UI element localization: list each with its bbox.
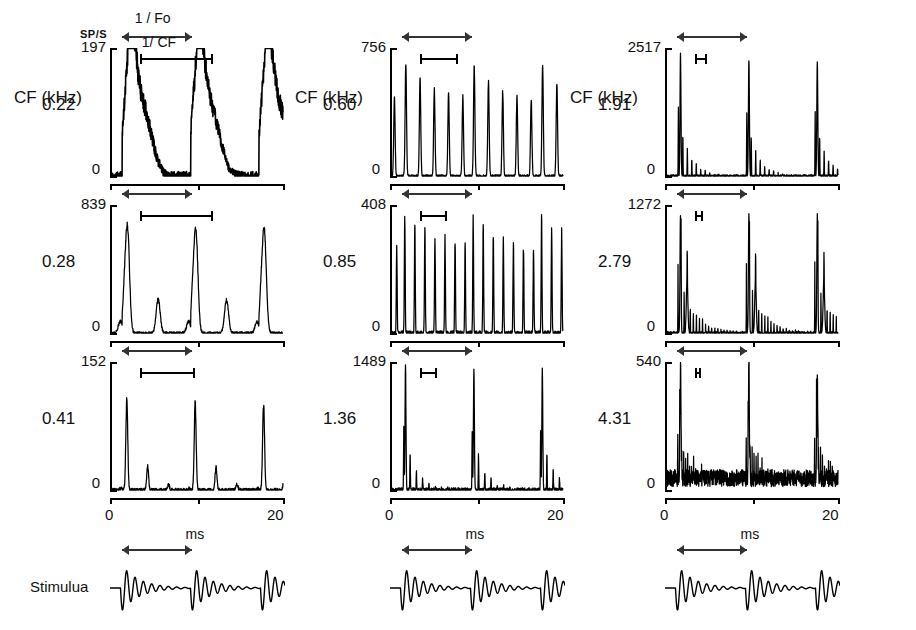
x-axis-tick (198, 341, 200, 347)
y-axis-zero-label: 0 (48, 474, 100, 491)
x-axis-tick (665, 498, 667, 504)
x-axis-tick-label-max: 20 (547, 506, 564, 523)
period-fo-arrow (402, 188, 472, 200)
y-axis-zero-label: 0 (603, 474, 655, 491)
x-axis-tick (110, 184, 112, 190)
histogram-trace (392, 205, 567, 335)
y-axis-max-label: 1272 (603, 195, 661, 212)
x-axis-tick-label-max: 20 (822, 506, 839, 523)
histogram-panel-cf-0.28: 8390 (110, 205, 285, 365)
stimulus-trace (665, 560, 840, 616)
column-header-cf-khz-0: CF (kHz) (14, 88, 82, 108)
x-axis-tick-label-min: 0 (385, 506, 393, 523)
x-axis-tick (478, 498, 480, 504)
period-fo-label: 1 / Fo (135, 10, 171, 26)
x-axis-tick (283, 184, 285, 190)
column-header-cf-khz-1: CF (kHz) (295, 88, 363, 108)
x-axis-tick (283, 498, 285, 504)
column-header-cf-khz-2: CF (kHz) (570, 88, 638, 108)
x-axis-tick (753, 498, 755, 504)
period-fo-arrow (122, 345, 192, 357)
x-axis-tick (110, 341, 112, 347)
period-fo-arrow (402, 345, 472, 357)
x-axis-tick-label-max: 20 (267, 506, 284, 523)
histogram-panel-cf-0.60: 7560 (390, 48, 565, 208)
histogram-trace (667, 48, 842, 178)
x-axis-tick (838, 341, 840, 347)
histogram-panel-cf-4.31: 5400020ms (665, 362, 840, 522)
period-fo-arrow (677, 31, 747, 43)
y-axis-max-label: 2517 (603, 38, 661, 55)
cf-value-0.41: 0.41 (42, 409, 75, 429)
stimulus-waveform-2 (665, 560, 840, 620)
histogram-panel-cf-0.22: 19701 / Fo1/ CF (110, 48, 285, 208)
period-cf-bracket (420, 211, 447, 221)
stimulus-label: Stimulua (30, 578, 88, 595)
period-cf-bracket (140, 211, 214, 221)
x-axis-tick (478, 184, 480, 190)
histogram-panel-cf-2.79: 12720 (665, 205, 840, 365)
period-cf-bracket (695, 368, 701, 378)
histogram-trace (667, 205, 842, 335)
histogram-panel-cf-0.85: 4080 (390, 205, 565, 365)
y-axis-zero-label: 0 (48, 160, 100, 177)
histogram-trace (112, 205, 287, 335)
period-fo-arrow (402, 31, 472, 43)
y-axis-zero-label: 0 (603, 160, 655, 177)
x-axis-tick (110, 498, 112, 504)
x-axis-tick (478, 341, 480, 347)
x-axis-tick (838, 498, 840, 504)
y-axis-max-label: 408 (328, 195, 386, 212)
y-axis-zero-label: 0 (603, 317, 655, 334)
stimulus-waveform-0 (110, 560, 285, 620)
x-axis-tick (390, 498, 392, 504)
period-fo-arrow (677, 345, 747, 357)
y-axis-zero-label: 0 (328, 160, 380, 177)
x-axis-tick-label-min: 0 (660, 506, 668, 523)
x-axis-tick (838, 184, 840, 190)
stimulus-waveform-1 (390, 560, 565, 620)
x-axis-tick (563, 184, 565, 190)
histogram-panel-cf-1.91: 25170 (665, 48, 840, 208)
period-cf-bracket (420, 54, 458, 64)
period-cf-bracket (140, 368, 195, 378)
y-axis-zero-label: 0 (328, 317, 380, 334)
x-axis-tick-label-min: 0 (105, 506, 113, 523)
x-axis-tick (753, 341, 755, 347)
histogram-trace (392, 48, 567, 178)
x-axis-unit-label: ms (741, 526, 760, 542)
y-axis-zero-label: 0 (48, 317, 100, 334)
histogram-panel-cf-1.36: 14890020ms (390, 362, 565, 522)
histogram-trace (392, 362, 567, 492)
x-axis-unit-label: ms (466, 526, 485, 542)
x-axis-tick (563, 341, 565, 347)
y-axis-max-label: 540 (603, 352, 661, 369)
x-axis-tick (390, 341, 392, 347)
x-axis-tick (665, 341, 667, 347)
period-fo-arrow (122, 188, 192, 200)
histogram-panel-cf-0.41: 1520020ms (110, 362, 285, 522)
stimulus-period-arrow (122, 544, 192, 556)
cf-value-4.31: 4.31 (598, 409, 631, 429)
y-axis-max-label: 839 (48, 195, 106, 212)
x-axis-tick (390, 184, 392, 190)
x-axis-unit-label: ms (186, 526, 205, 542)
stimulus-trace (110, 560, 285, 616)
x-axis-tick (198, 184, 200, 190)
x-axis-tick (563, 498, 565, 504)
y-axis-max-label: 1489 (328, 352, 386, 369)
period-cf-bracket (695, 54, 707, 64)
period-cf-bracket (420, 368, 437, 378)
cf-value-2.79: 2.79 (598, 252, 631, 272)
x-axis-tick (198, 498, 200, 504)
stimulus-period-arrow (677, 544, 747, 556)
period-cf-label: 1/ CF (142, 34, 176, 50)
period-histogram-figure: SP/S 19701 / Fo1/ CF0.2283900.281520020m… (0, 0, 916, 630)
y-axis-max-label: 197 (48, 38, 106, 55)
histogram-trace (112, 48, 287, 178)
period-cf-bracket (695, 211, 703, 221)
period-fo-arrow (677, 188, 747, 200)
period-cf-bracket (140, 54, 214, 64)
cf-value-0.85: 0.85 (323, 252, 356, 272)
stimulus-period-arrow (402, 544, 472, 556)
